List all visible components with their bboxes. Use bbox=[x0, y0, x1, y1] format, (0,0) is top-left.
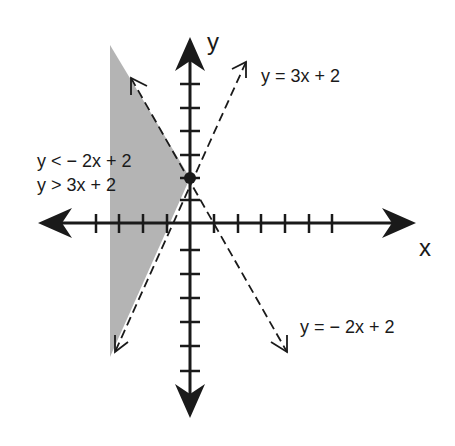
coordinate-plane bbox=[0, 0, 455, 446]
line2-label: y = − 2x + 2 bbox=[300, 318, 395, 336]
line1-label: y = 3x + 2 bbox=[261, 67, 340, 85]
x-axis-label: x bbox=[419, 236, 431, 260]
inequality-2-label: y > 3x + 2 bbox=[37, 176, 116, 194]
intersection-point bbox=[184, 172, 196, 184]
inequality-1-label: y < − 2x + 2 bbox=[37, 152, 132, 170]
x-axis bbox=[38, 208, 416, 238]
shaded-solution-region bbox=[110, 45, 190, 357]
y-axis bbox=[175, 37, 205, 418]
y-axis-label: y bbox=[207, 30, 219, 54]
